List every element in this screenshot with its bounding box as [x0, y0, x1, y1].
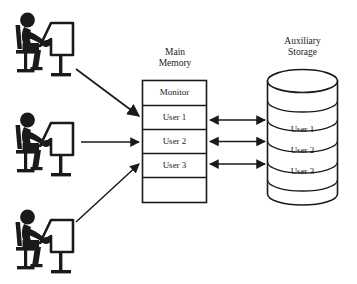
arrow-terminal-1-to-user-1 [76, 69, 139, 116]
storage-disc-user-3: User 3 [267, 166, 338, 176]
auxiliary-storage-title: Auxiliary Storage [266, 36, 339, 57]
memory-cell-user-3: User 3 [142, 160, 207, 170]
terminal-user-1 [16, 12, 74, 76]
auxiliary-storage-cylinder [268, 70, 338, 206]
memory-cell-user-2: User 2 [142, 136, 207, 146]
terminal-user-2 [16, 112, 74, 176]
main-memory-title: Main Memory [142, 47, 208, 68]
storage-disc-user-2: User 2 [267, 145, 338, 155]
diagram-canvas: Main Memory Auxiliary Storage Monitor Us… [0, 0, 357, 284]
arrow-terminal-3-to-user-3 [76, 164, 139, 222]
storage-disc-user-1: User 1 [267, 124, 338, 134]
terminal-user-3 [16, 209, 74, 273]
memory-cell-user-1: User 1 [142, 112, 207, 122]
memory-cell-monitor: Monitor [142, 87, 207, 97]
